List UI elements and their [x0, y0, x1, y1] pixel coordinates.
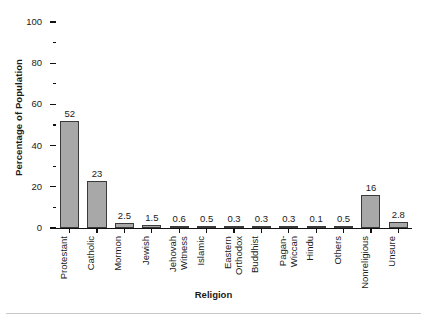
- x-category-label: JehovahWitness: [168, 236, 189, 272]
- x-tick: [316, 228, 317, 233]
- x-axis-title: Religion: [0, 289, 427, 300]
- y-tick-major: 20: [50, 186, 56, 187]
- bar: [115, 223, 134, 228]
- x-category-label-line1: Catholic: [85, 236, 96, 270]
- x-category-label-line2: Witness: [179, 236, 190, 272]
- bar-value-label: 2.5: [118, 211, 131, 221]
- x-category-label-line1: Eastern: [222, 236, 233, 269]
- x-category-label-line1: Nonreligious: [359, 236, 370, 289]
- x-tick: [179, 228, 180, 233]
- bar: [224, 226, 243, 228]
- bar-value-label: 0.1: [310, 214, 323, 224]
- bar-value-label: 0.5: [337, 214, 350, 224]
- x-category-label-line1: Buddhist: [249, 236, 260, 273]
- bar: [142, 225, 161, 228]
- bar-value-label: 1.5: [145, 213, 158, 223]
- x-tick: [398, 228, 399, 233]
- y-tick-major: 0: [50, 227, 56, 228]
- x-category-label-line1: Jewish: [140, 236, 151, 265]
- x-tick: [151, 228, 152, 233]
- y-tick-minor: [53, 166, 57, 167]
- x-tick: [124, 228, 125, 233]
- x-category-label-line1: Others: [332, 236, 343, 265]
- x-tick: [343, 228, 344, 233]
- x-category-label: Buddhist: [250, 236, 261, 273]
- bar-chart-figure: Percentage of Population 020406080100 52…: [0, 0, 427, 327]
- bar: [389, 222, 408, 228]
- x-category-label: Mormon: [113, 236, 124, 271]
- x-tick: [288, 228, 289, 233]
- y-tick-major: 60: [50, 104, 56, 105]
- x-tick: [206, 228, 207, 233]
- bar-value-label: 16: [366, 183, 377, 193]
- x-category-label: Unsure: [387, 236, 398, 267]
- bar-value-label: 23: [92, 169, 103, 179]
- x-category-label: Others: [333, 236, 344, 265]
- x-tick: [96, 228, 97, 233]
- bar-value-label: 0.3: [282, 214, 295, 224]
- bar-value-label: 0.3: [227, 214, 240, 224]
- x-category-label-line1: Islamic: [195, 236, 206, 266]
- x-category-label: Islamic: [196, 236, 207, 266]
- footer-divider: [6, 313, 421, 314]
- bar-value-label: 0.3: [255, 214, 268, 224]
- x-category-label: Nonreligious: [360, 236, 371, 289]
- bar: [252, 226, 271, 228]
- y-tick-minor: [53, 42, 57, 43]
- x-category-label: Pagan-Wiccan: [278, 236, 299, 267]
- x-category-label: EasternOrthodox: [223, 236, 244, 275]
- y-tick-label: 0: [37, 223, 42, 233]
- bar: [307, 226, 326, 228]
- plot-area: 020406080100 52232.51.50.60.50.30.30.30.…: [56, 22, 412, 228]
- x-category-label-line1: Protestant: [58, 236, 69, 279]
- bar: [87, 181, 106, 228]
- x-tick: [370, 228, 371, 233]
- y-tick-label: 80: [31, 58, 42, 68]
- x-category-label-line1: Mormon: [112, 236, 123, 271]
- bar: [279, 226, 298, 228]
- bar-value-label: 2.8: [392, 210, 405, 220]
- y-tick-minor: [53, 207, 57, 208]
- y-tick-major: 80: [50, 63, 56, 64]
- bar-value-label: 0.6: [173, 214, 186, 224]
- bar: [60, 121, 79, 228]
- y-tick-label: 20: [31, 182, 42, 192]
- y-axis-title: Percentage of Population: [13, 28, 24, 208]
- x-category-label: Protestant: [59, 236, 70, 279]
- x-tick: [69, 228, 70, 233]
- x-tick: [233, 228, 234, 233]
- x-category-label-line1: Pagan-: [277, 236, 288, 267]
- bar-value-label: 0.5: [200, 214, 213, 224]
- x-category-label: Hindu: [305, 236, 316, 261]
- bar: [361, 195, 380, 228]
- x-category-label-line1: Hindu: [304, 236, 315, 261]
- x-category-label: Jewish: [141, 236, 152, 265]
- x-category-label-line2: Wiccan: [288, 236, 299, 267]
- x-category-label: Catholic: [86, 236, 97, 270]
- x-tick: [261, 228, 262, 233]
- x-category-label-line1: Unsure: [386, 236, 397, 267]
- y-tick-label: 60: [31, 100, 42, 110]
- y-tick-major: 100: [50, 21, 56, 22]
- y-tick-minor: [53, 124, 57, 125]
- bar: [170, 226, 189, 228]
- y-tick-label: 100: [26, 17, 42, 27]
- x-category-label-line2: Orthodox: [234, 236, 245, 275]
- bar: [334, 226, 353, 228]
- y-tick-label: 40: [31, 141, 42, 151]
- y-tick-major: 40: [50, 145, 56, 146]
- y-tick-minor: [53, 83, 57, 84]
- bar: [197, 226, 216, 228]
- bar-value-label: 52: [64, 109, 75, 119]
